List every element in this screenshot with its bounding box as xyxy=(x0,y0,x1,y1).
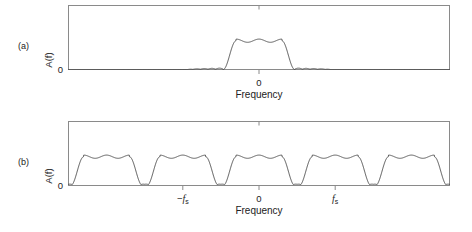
panel-a-spectrum-curve xyxy=(69,39,450,69)
panel-b-y-axis-label: A(f) xyxy=(43,168,54,183)
panel-a-x-tick-labels: 0 xyxy=(256,77,261,88)
panel-a: (a) A(f) 0 Frequency 0 xyxy=(0,0,472,116)
x-tick-label: 0 xyxy=(256,77,261,88)
x-tick-label: −fs xyxy=(177,193,189,206)
panel-b-x-axis-label: Frequency xyxy=(235,205,282,216)
x-tick-label: 0 xyxy=(256,193,261,204)
panel-b-x-tick-labels: −fs0fs xyxy=(177,193,339,206)
panel-b-tag: (b) xyxy=(18,157,29,167)
figure-sampling-spectra: (a) A(f) 0 Frequency 0 (b) A(f) 0 Freque… xyxy=(0,0,472,232)
panel-b-y-zero-label: 0 xyxy=(58,180,63,191)
panel-a-y-zero-label: 0 xyxy=(58,64,63,75)
x-tick-label: fs xyxy=(332,193,339,206)
panel-a-x-axis-label: Frequency xyxy=(235,89,282,100)
panel-a-y-axis-label: A(f) xyxy=(43,52,54,67)
panel-a-frame xyxy=(69,6,450,70)
panel-b-spectrum-curve xyxy=(69,155,450,184)
panel-a-tag: (a) xyxy=(18,41,29,51)
panel-b: (b) A(f) 0 Frequency −fs0fs xyxy=(0,116,472,232)
panel-b-bottom-ticks xyxy=(183,186,335,191)
panel-b-frame xyxy=(69,122,450,186)
